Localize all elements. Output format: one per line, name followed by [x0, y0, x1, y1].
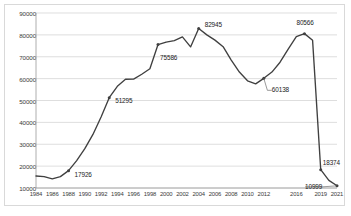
line-chart: 9000080000700006000050000400003000020000… [0, 0, 351, 216]
x-axis-tick-label: 2016 [290, 191, 303, 197]
data-value-label: 17926 [75, 171, 92, 178]
x-axis-tick-label: 1998 [144, 191, 157, 197]
plot-area [0, 0, 351, 216]
x-axis-tick-label: 2012 [258, 191, 271, 197]
data-point-markers [67, 27, 338, 187]
x-axis-tick-label: 2019 [314, 191, 327, 197]
data-value-label: 80566 [296, 19, 313, 26]
x-axis-tick-label: 2004 [192, 191, 205, 197]
x-axis-tick-label: 2010 [241, 191, 254, 197]
data-point-marker [67, 169, 70, 172]
data-value-label: 51295 [115, 97, 132, 104]
x-axis-tick-label: 1994 [111, 191, 124, 197]
gridlines [36, 13, 337, 188]
x-axis-tick-label: 1984 [30, 191, 43, 197]
x-axis-tick-label: 1988 [62, 191, 75, 197]
data-point-marker [303, 32, 306, 35]
x-axis-tick-label: 2002 [176, 191, 189, 197]
x-axis-tick-label: 1992 [95, 191, 108, 197]
x-axis-tick-label: 1986 [46, 191, 59, 197]
data-value-label: 18374 [323, 159, 340, 166]
data-series-line [36, 28, 337, 185]
x-axis-tick-label: 1996 [127, 191, 140, 197]
x-axis-tick-label: 1990 [79, 191, 92, 197]
data-point-marker [197, 27, 200, 30]
data-point-marker [108, 96, 111, 99]
data-point-marker [319, 168, 322, 171]
data-value-label: 75586 [160, 54, 177, 61]
data-value-label: 60138 [272, 86, 289, 93]
x-axis-tick-label: 2006 [209, 191, 222, 197]
data-point-marker [157, 43, 160, 46]
data-value-label: 10999 [305, 183, 322, 190]
data-value-label: 82945 [205, 21, 222, 28]
annotation-leader-line [264, 78, 272, 90]
annotation-leader-lines [264, 78, 337, 186]
x-axis-tick-label: 2000 [160, 191, 173, 197]
x-axis-tick-label: 2021 [331, 191, 344, 197]
x-axis-tick-label: 2008 [225, 191, 238, 197]
